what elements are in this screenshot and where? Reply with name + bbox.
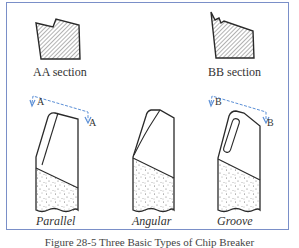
groove-tool	[218, 111, 260, 212]
bb-section-shape	[211, 12, 254, 58]
section-marker-b-left: B	[215, 96, 222, 107]
aa-section-shape	[36, 19, 80, 59]
figure-caption: Figure 28-5 Three Basic Types of Chip Br…	[0, 236, 299, 248]
groove-label: Groove	[217, 214, 253, 229]
section-marker-b-right: B	[267, 117, 274, 128]
angular-label: Angular	[132, 214, 171, 229]
section-marker-a-right: A	[89, 117, 96, 128]
bb-section-label: BB section	[208, 65, 261, 80]
parallel-label: Parallel	[36, 214, 75, 229]
angular-tool	[133, 110, 174, 212]
parallel-tool	[36, 113, 78, 212]
aa-section-label: AA section	[33, 65, 87, 80]
section-marker-a-left: A	[37, 96, 44, 107]
